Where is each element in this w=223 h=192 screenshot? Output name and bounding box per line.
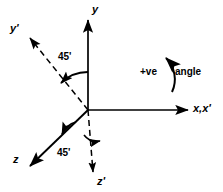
diagram-canvas bbox=[0, 0, 223, 192]
angle-word-label: angle bbox=[175, 67, 201, 77]
positive-sense-label: +ve bbox=[140, 67, 157, 77]
angle-label-lower: 45' bbox=[57, 148, 71, 158]
angle-label-upper: 45' bbox=[58, 52, 72, 62]
z-axis-label: z bbox=[13, 154, 19, 165]
rotation-tick-arrow bbox=[84, 135, 100, 141]
angle-arc-y-yprime bbox=[61, 72, 88, 83]
x-axis-label: x,x' bbox=[193, 103, 211, 114]
y-axis-label: y bbox=[92, 4, 98, 15]
z-prime-axis-label: z' bbox=[97, 176, 105, 187]
y-prime-axis-line bbox=[30, 38, 88, 110]
y-prime-axis-label: y' bbox=[10, 23, 19, 34]
axis-rotation-diagram: y y' z z' x,x' 45' 45' +ve angle bbox=[0, 0, 223, 192]
positive-angle-arc bbox=[166, 58, 175, 92]
